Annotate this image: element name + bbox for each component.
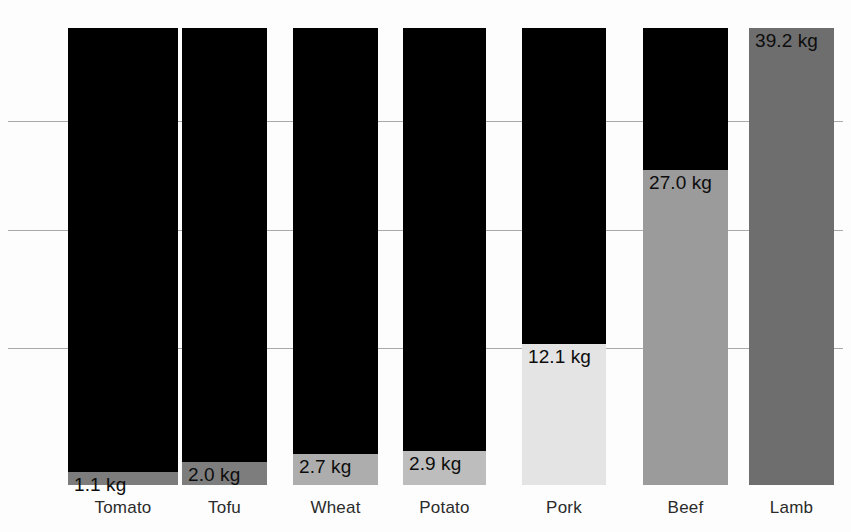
plot-area: 1.1 kgTomato2.0 kgTofu2.7 kgWheat2.9 kgP… [0, 0, 851, 532]
bar-value-label: 39.2 kg [755, 30, 818, 52]
bar-value-label: 2.7 kg [299, 456, 351, 478]
bar-group[interactable]: 39.2 kgLamb [749, 0, 834, 532]
bar-value-label: 2.9 kg [409, 453, 461, 475]
bar-segment-value: 12.1 kg [522, 344, 606, 485]
bar-stack[interactable]: 27.0 kg [643, 28, 728, 485]
bar-segment-value: 2.7 kg [293, 454, 378, 485]
bar-segment-value: 2.9 kg [403, 451, 486, 485]
category-label: Wheat [293, 498, 378, 518]
bar-segment-remainder [403, 28, 486, 451]
category-label: Pork [522, 498, 606, 518]
bar-segment-value: 2.0 kg [182, 462, 267, 485]
bar-group[interactable]: 1.1 kgTomato [68, 0, 178, 532]
bar-value-label: 1.1 kg [74, 474, 126, 496]
category-label: Beef [643, 498, 728, 518]
bar-segment-value: 39.2 kg [749, 28, 834, 485]
bar-segment-value: 1.1 kg [68, 472, 178, 485]
bar-segment-remainder [643, 28, 728, 170]
bar-group[interactable]: 2.0 kgTofu [182, 0, 267, 532]
bar-value-label: 12.1 kg [528, 346, 591, 368]
bar-stack[interactable]: 1.1 kg [68, 28, 178, 485]
bar-segment-remainder [182, 28, 267, 462]
bar-stack[interactable]: 12.1 kg [522, 28, 606, 485]
category-label: Tofu [182, 498, 267, 518]
bar-segment-remainder [522, 28, 606, 344]
category-label: Potato [403, 498, 486, 518]
bar-value-label: 2.0 kg [188, 464, 240, 486]
bar-stack[interactable]: 2.7 kg [293, 28, 378, 485]
bar-stack[interactable]: 2.9 kg [403, 28, 486, 485]
bar-group[interactable]: 2.9 kgPotato [403, 0, 486, 532]
bar-group[interactable]: 27.0 kgBeef [643, 0, 728, 532]
bar-stack[interactable]: 2.0 kg [182, 28, 267, 485]
bar-group[interactable]: 12.1 kgPork [522, 0, 606, 532]
bar-segment-remainder [68, 28, 178, 472]
category-label: Lamb [749, 498, 834, 518]
bar-value-label: 27.0 kg [649, 172, 712, 194]
bar-segment-remainder [293, 28, 378, 454]
bar-chart: 1.1 kgTomato2.0 kgTofu2.7 kgWheat2.9 kgP… [0, 0, 851, 532]
bar-stack[interactable]: 39.2 kg [749, 28, 834, 485]
bar-group[interactable]: 2.7 kgWheat [293, 0, 378, 532]
bar-segment-value: 27.0 kg [643, 170, 728, 485]
category-label: Tomato [68, 498, 178, 518]
